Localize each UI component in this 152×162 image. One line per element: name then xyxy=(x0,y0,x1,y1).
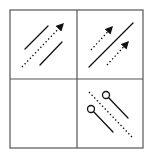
diagram-canvas xyxy=(0,0,152,162)
solid-line xyxy=(40,42,62,65)
panel-top-left xyxy=(22,24,63,67)
panel-bottom-right xyxy=(88,92,133,138)
solid-line xyxy=(89,23,133,67)
diagram-svg xyxy=(0,0,152,162)
circle-stem-line xyxy=(108,98,128,118)
grid xyxy=(10,10,143,148)
panel-top-right xyxy=(89,23,133,67)
solid-line xyxy=(25,26,48,49)
